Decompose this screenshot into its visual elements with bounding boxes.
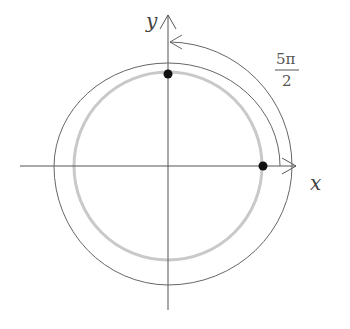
y-axis-label: y	[145, 9, 158, 33]
x-axis-label: x	[310, 171, 321, 195]
unit-circle-diagram: y x 5π 2	[0, 0, 350, 329]
angle-numerator: 5π	[276, 50, 296, 68]
end-point	[164, 70, 173, 79]
angle-denominator: 2	[282, 72, 292, 90]
start-point	[259, 162, 268, 171]
rotation-spiral	[54, 42, 292, 285]
